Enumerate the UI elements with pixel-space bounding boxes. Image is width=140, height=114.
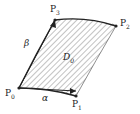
- point-p2: [114, 24, 117, 27]
- label-region-d0: D0: [63, 53, 74, 64]
- label-vector-alpha: α: [42, 94, 48, 103]
- label-p1: P1: [72, 100, 82, 111]
- label-p3: P3: [50, 5, 60, 16]
- label-p2: P2: [120, 19, 130, 30]
- point-p1: [74, 94, 77, 97]
- point-p0: [17, 86, 20, 89]
- point-p3: [53, 18, 56, 21]
- label-vector-beta: β: [24, 39, 29, 48]
- label-p0: P0: [5, 89, 15, 100]
